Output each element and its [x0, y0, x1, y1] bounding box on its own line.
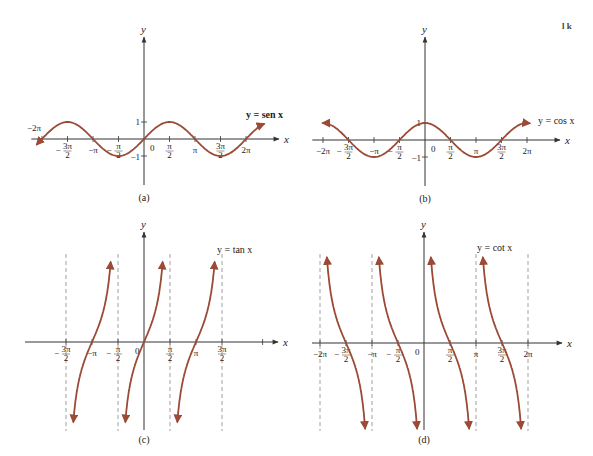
svg-text:2: 2: [116, 353, 121, 363]
x-tick-label: π: [474, 146, 479, 156]
svg-text:−: −: [106, 348, 111, 358]
y-tick-neg1: −1: [411, 153, 421, 163]
svg-text:−π: −π: [88, 145, 98, 155]
svg-text:2: 2: [499, 151, 504, 161]
svg-text:−: −: [336, 146, 341, 156]
x-axis-label: x: [564, 134, 570, 146]
y-axis-label: y: [140, 218, 146, 230]
svg-text:2: 2: [346, 151, 351, 161]
x-tick-label: 2π: [241, 145, 251, 155]
caption: (a): [138, 192, 149, 204]
svg-text:π: π: [474, 349, 479, 359]
svg-text:2: 2: [64, 353, 69, 363]
y-axis-label: y: [421, 23, 427, 35]
x-tick-label: −3π2: [54, 344, 71, 363]
svg-text:2: 2: [344, 354, 349, 364]
svg-text:2: 2: [396, 354, 401, 364]
svg-text:−: −: [54, 348, 59, 358]
x-tick-label: 0: [150, 143, 155, 153]
x-tick-label: π2: [447, 142, 455, 161]
x-tick-label: −3π2: [55, 141, 72, 160]
svg-text:−2π: −2π: [313, 349, 328, 359]
svg-text:π: π: [194, 348, 199, 358]
x-tick-label: π2: [166, 344, 174, 363]
svg-text:2: 2: [220, 353, 225, 363]
svg-text:2: 2: [397, 151, 402, 161]
equation-label: y = sen x: [246, 109, 283, 120]
x-tick-label: π: [193, 145, 198, 155]
trig-graphs-figure: xy1−1−2π−3π2−π−π20π2π3π22πy = sen x(a) x…: [0, 0, 593, 456]
x-tick-label: π2: [166, 141, 174, 160]
x-tick-label: 0: [431, 144, 436, 154]
x-tick-label: 0: [415, 347, 420, 357]
chart-b-cosine: xy1−1−2π−3π2−π−π20π2π3π22πy = cos x(b): [312, 23, 574, 205]
svg-text:2π: 2π: [523, 349, 533, 359]
svg-text:−: −: [386, 349, 391, 359]
x-tick-label: −π: [367, 349, 377, 359]
x-tick-label: 3π2: [217, 344, 227, 363]
svg-text:2π: 2π: [241, 145, 251, 155]
svg-text:π: π: [193, 145, 198, 155]
svg-text:−π: −π: [367, 349, 377, 359]
x-tick-label: 2π: [522, 146, 532, 156]
caption: (d): [418, 434, 430, 446]
x-tick-label: π: [474, 349, 479, 359]
chart-a-sine: xy1−1−2π−3π2−π−π20π2π3π22πy = sen x(a): [27, 23, 289, 204]
svg-text:2: 2: [500, 354, 505, 364]
svg-text:2: 2: [167, 150, 172, 160]
y-tick-1: 1: [136, 117, 141, 127]
x-tick-label: 2π: [523, 349, 533, 359]
svg-text:−2π: −2π: [316, 146, 331, 156]
x-axis-label: x: [282, 336, 288, 348]
x-tick-label: −3π2: [336, 142, 353, 161]
x-tick-label: 3π2: [497, 345, 507, 364]
svg-text:−: −: [334, 349, 339, 359]
svg-text:−: −: [55, 145, 60, 155]
x-tick-label: −2π: [313, 349, 328, 359]
x-tick-label: π: [194, 348, 199, 358]
x-axis-label: x: [566, 337, 572, 349]
x-tick-label: −π2: [106, 141, 122, 160]
svg-text:−π: −π: [369, 146, 379, 156]
x-tick-label: −π2: [106, 344, 122, 363]
chart-c-tangent: xy−3π2−π−π20π2π3π2y = tan x(c): [25, 218, 288, 446]
y-axis-label: y: [140, 23, 146, 35]
y-axis-label: y: [420, 218, 426, 230]
chart-d-cotangent: xy−2π−3π2−π−π20π2π3π22πy = cot x(d): [312, 218, 572, 446]
caption: (c): [138, 434, 149, 446]
equation-label: y = tan x: [217, 244, 252, 255]
svg-text:2: 2: [448, 151, 453, 161]
caption: (b): [419, 193, 431, 205]
x-tick-label: 3π2: [497, 142, 507, 161]
x-tick-label: −2π: [316, 146, 331, 156]
svg-text:2: 2: [65, 150, 70, 160]
x-tick-label: −π: [88, 145, 98, 155]
x-tick-label: 3π2: [216, 141, 226, 160]
x-tick-label: −2π: [27, 123, 42, 133]
corner-mark: l k: [562, 21, 572, 31]
equation-label: y = cos x: [538, 115, 574, 126]
svg-text:−2π: −2π: [27, 123, 42, 133]
y-tick-neg1: −1: [130, 152, 140, 162]
x-tick-label: −π: [369, 146, 379, 156]
svg-text:2π: 2π: [522, 146, 532, 156]
x-axis-label: x: [283, 133, 289, 145]
svg-text:π: π: [474, 146, 479, 156]
svg-text:2: 2: [168, 353, 173, 363]
equation-label: y = cot x: [477, 242, 512, 253]
svg-text:2: 2: [448, 354, 453, 364]
